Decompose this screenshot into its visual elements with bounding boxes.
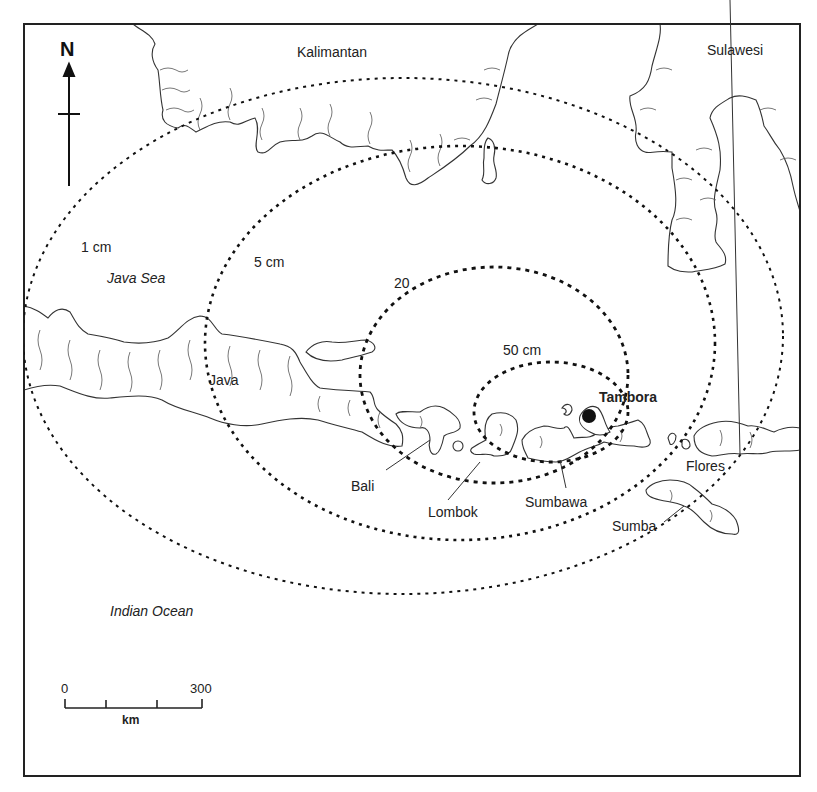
scale-unit-label: km xyxy=(122,713,139,727)
label-java: Java xyxy=(209,372,239,388)
label-java-sea: Java Sea xyxy=(107,270,165,286)
label-bali: Bali xyxy=(351,478,374,494)
label-tambora: Tambora xyxy=(599,389,657,405)
tambora-volcano-marker xyxy=(582,409,596,423)
map-canvas xyxy=(0,0,817,792)
isopach-label-1cm: 1 cm xyxy=(81,239,111,255)
label-indian-ocean: Indian Ocean xyxy=(110,603,193,619)
landmass-flores xyxy=(694,421,800,456)
label-flores: Flores xyxy=(686,458,725,474)
isopach-label-20: 20 xyxy=(394,275,410,291)
leader-sumba xyxy=(664,506,684,522)
label-sumba: Sumba xyxy=(612,518,656,534)
isopach-label-50cm: 50 cm xyxy=(503,342,541,358)
label-sulawesi: Sulawesi xyxy=(707,42,763,58)
landmass-bali xyxy=(396,406,460,454)
label-lombok: Lombok xyxy=(428,504,478,520)
landmass-sulawesi xyxy=(630,24,800,272)
landmass-sumba xyxy=(646,480,739,534)
north-label: N xyxy=(60,38,74,61)
isopach-5cm xyxy=(205,146,715,540)
scale-bar-icon xyxy=(65,699,202,708)
landmass-lombok xyxy=(471,413,518,456)
north-arrow-icon xyxy=(58,64,80,186)
leader-sumbawa xyxy=(560,460,566,488)
landmass-kalimantan-islet xyxy=(482,138,496,184)
label-sumbawa: Sumbawa xyxy=(525,494,587,510)
isopach-label-5cm: 5 cm xyxy=(254,254,284,270)
label-kalimantan: Kalimantan xyxy=(297,44,367,60)
scale-start-label: 0 xyxy=(61,681,68,696)
scale-end-label: 300 xyxy=(190,681,212,696)
